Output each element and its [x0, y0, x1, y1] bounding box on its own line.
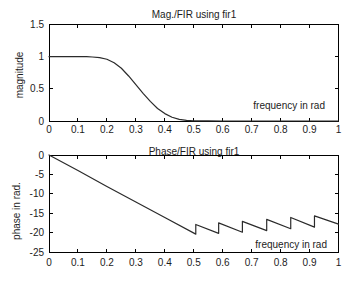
magnitude-plot-area: 00.10.20.30.40.50.60.70.80.9100.511.5 [0, 0, 353, 141]
phase-response [49, 155, 339, 234]
x-tick-label: 0.4 [158, 257, 172, 268]
x-tick-label: 1 [336, 257, 342, 268]
phase-chart: Phase/FIR using fir1 phase in rad. frequ… [0, 141, 353, 282]
y-tick-label: -10 [30, 188, 45, 199]
y-tick-label: 0.5 [30, 83, 44, 94]
x-tick-label: 0.5 [187, 257, 201, 268]
y-tick-label: 1.5 [30, 19, 44, 30]
magnitude-response [49, 57, 339, 121]
x-tick-label: 0 [46, 124, 52, 135]
x-tick-label: 0.2 [100, 257, 114, 268]
axes-box [49, 25, 339, 122]
x-tick-label: 0.8 [274, 257, 288, 268]
x-tick-label: 0.9 [303, 124, 317, 135]
y-tick-label: 1 [38, 51, 44, 62]
x-tick-label: 0.4 [158, 124, 172, 135]
y-tick-label: -25 [30, 247, 45, 258]
x-tick-label: 0.5 [187, 124, 201, 135]
y-tick-label: -20 [30, 227, 45, 238]
x-tick-label: 0.7 [245, 124, 259, 135]
y-tick-label: 0 [38, 116, 44, 127]
x-tick-label: 0.3 [129, 257, 143, 268]
x-tick-label: 0 [46, 257, 52, 268]
y-tick-label: 0 [38, 150, 44, 161]
x-tick-label: 0.6 [216, 257, 230, 268]
figure: Mag./FIR using fir1 magnitude frequency … [0, 0, 353, 282]
phase-plot-area: 00.10.20.30.40.50.60.70.80.910-5-10-15-2… [0, 141, 353, 282]
x-tick-label: 0.3 [129, 124, 143, 135]
axes-box [49, 155, 339, 252]
x-tick-label: 0.9 [303, 257, 317, 268]
y-tick-label: -5 [35, 169, 44, 180]
x-tick-label: 0.7 [245, 257, 259, 268]
x-tick-label: 0.2 [100, 124, 114, 135]
x-tick-label: 0.6 [216, 124, 230, 135]
x-tick-label: 1 [336, 124, 342, 135]
magnitude-chart: Mag./FIR using fir1 magnitude frequency … [0, 0, 353, 141]
x-tick-label: 0.8 [274, 124, 288, 135]
x-tick-label: 0.1 [71, 257, 85, 268]
x-tick-label: 0.1 [71, 124, 85, 135]
y-tick-label: -15 [30, 208, 45, 219]
